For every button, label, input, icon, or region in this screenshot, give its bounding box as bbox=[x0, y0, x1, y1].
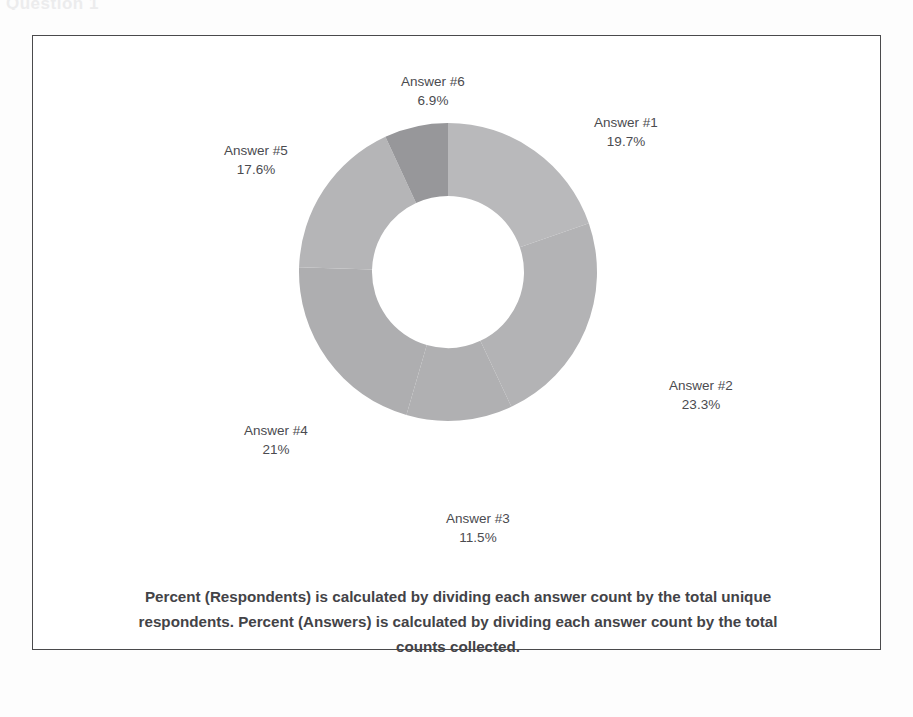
slice-label-value: 19.7% bbox=[556, 132, 696, 151]
slice-label-answer-2: Answer #2 23.3% bbox=[626, 376, 776, 414]
slice-label-answer-6: Answer #6 6.9% bbox=[363, 72, 503, 110]
slice-label-name: Answer #3 bbox=[408, 509, 548, 528]
slice-label-name: Answer #2 bbox=[626, 376, 776, 395]
donut-chart: Answer #6 6.9% Answer #1 19.7% Answer #5… bbox=[33, 36, 882, 571]
slice-label-name: Answer #5 bbox=[186, 141, 326, 160]
chart-frame: Answer #6 6.9% Answer #1 19.7% Answer #5… bbox=[32, 35, 881, 650]
slice-label-value: 6.9% bbox=[363, 91, 503, 110]
slice-label-value: 11.5% bbox=[408, 528, 548, 547]
document-header-text: Question 1 bbox=[6, 0, 326, 10]
donut-svg bbox=[298, 122, 598, 422]
chart-caption: Percent (Respondents) is calculated by d… bbox=[123, 584, 793, 659]
slice-label-name: Answer #1 bbox=[556, 113, 696, 132]
caption-line-1: Percent (Respondents) is calculated by d… bbox=[145, 588, 681, 605]
slice-label-value: 17.6% bbox=[186, 160, 326, 179]
donut-slice-4[interactable] bbox=[299, 267, 427, 415]
slice-label-answer-5: Answer #5 17.6% bbox=[186, 141, 326, 179]
donut-graphic bbox=[298, 122, 598, 422]
slice-label-name: Answer #4 bbox=[206, 421, 346, 440]
slice-label-answer-1: Answer #1 19.7% bbox=[556, 113, 696, 151]
screenshot-page: Question 1 Answer #6 6.9% Answer #1 19.7… bbox=[0, 0, 913, 717]
slice-label-answer-3: Answer #3 11.5% bbox=[408, 509, 548, 547]
slice-label-name: Answer #6 bbox=[363, 72, 503, 91]
slice-label-value: 23.3% bbox=[626, 395, 776, 414]
slice-label-answer-4: Answer #4 21% bbox=[206, 421, 346, 459]
slice-label-value: 21% bbox=[206, 440, 346, 459]
